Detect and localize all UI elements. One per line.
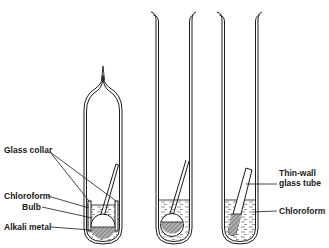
open-tube-thin-wall [217, 12, 262, 244]
open-tube-with-bulb [151, 12, 196, 244]
label-alkali-metal: Alkali metal [4, 222, 51, 232]
label-bulb: Bulb [22, 202, 41, 212]
label-thin-wall-line2: glass tube [279, 178, 321, 188]
label-chloroform-left: Chloroform [4, 191, 50, 201]
label-glass-collar: Glass collar [4, 145, 52, 155]
label-chloroform-right: Chloroform [279, 206, 325, 216]
label-thin-wall-line1: Thin-wall [279, 168, 316, 178]
